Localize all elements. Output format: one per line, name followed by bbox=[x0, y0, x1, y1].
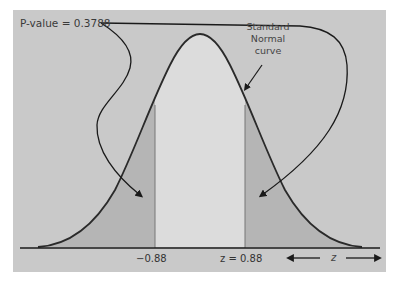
center-region bbox=[155, 20, 245, 248]
p-value-annotation: P-value = 0.3788 bbox=[20, 17, 111, 29]
curve-label-line: Normal bbox=[243, 33, 293, 45]
shaded-area bbox=[20, 20, 385, 248]
left-tail-region bbox=[20, 20, 155, 248]
axis-label: z bbox=[331, 252, 336, 263]
tick-label-right: z = 0.88 bbox=[220, 253, 262, 264]
curve-label: Standard Normal curve bbox=[243, 21, 293, 57]
normal-curve-diagram bbox=[0, 0, 401, 282]
curve-label-arrow bbox=[246, 65, 262, 88]
tick-label-left: −0.88 bbox=[136, 253, 167, 264]
curve-label-line: Standard bbox=[243, 21, 293, 33]
curve-label-line: curve bbox=[243, 45, 293, 57]
